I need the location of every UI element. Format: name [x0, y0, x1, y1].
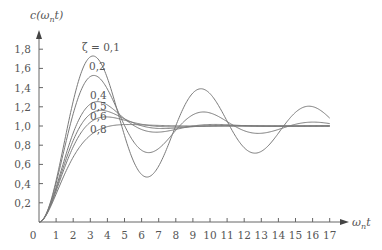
- curve-zeta-0-1: [39, 56, 330, 222]
- y-tick-label: 1,6: [14, 62, 31, 74]
- x-tick-label: 2: [70, 229, 77, 241]
- y-tick-label: 0,8: [14, 139, 31, 151]
- y-tick-label: 0,2: [14, 197, 31, 209]
- x-tick-label: 15: [289, 229, 302, 241]
- curve-label: ζ = 0,1: [82, 41, 120, 53]
- x-tick-label: 11: [220, 229, 233, 241]
- curve-zeta-0-4: [39, 102, 330, 222]
- x-tick-label: 12: [238, 229, 251, 241]
- x-axis-arrow-icon: [340, 219, 349, 225]
- y-tick-label: 1,0: [14, 120, 31, 132]
- axes: [36, 30, 349, 225]
- x-tick-label: 6: [138, 229, 145, 241]
- curve-zeta-0-8: [39, 125, 330, 222]
- x-tick-label: 8: [172, 229, 179, 241]
- x-tick-label: 1: [53, 229, 60, 241]
- x-tick-label: 16: [306, 229, 320, 241]
- curve-label: 0,8: [90, 123, 107, 135]
- y-tick-label: 0,6: [14, 158, 31, 170]
- y-tick-label: 0,4: [14, 178, 31, 190]
- y-axis-arrow-icon: [36, 30, 42, 39]
- curve-label: 0,6: [90, 110, 107, 122]
- curve-labels: ζ = 0,10,20,40,50,60,8: [82, 41, 120, 135]
- y-tick-label: 1,4: [14, 82, 31, 94]
- x-tick-label: 14: [272, 229, 286, 241]
- x-tick-label: 9: [190, 229, 197, 241]
- x-tick-label: 17: [323, 229, 336, 241]
- origin-label: 0: [30, 229, 37, 241]
- step-response-chart: 1234567891011121314151617 0,20,40,60,81,…: [0, 0, 382, 250]
- x-tick-label: 5: [121, 229, 128, 241]
- x-tick-label: 4: [104, 229, 111, 241]
- x-tick-label: 10: [203, 229, 216, 241]
- y-tick-label: 1,8: [14, 43, 31, 55]
- y-axis-label: c(ωnt): [30, 9, 63, 24]
- x-tick-label: 13: [255, 229, 268, 241]
- curve-zeta-0-2: [39, 75, 330, 222]
- x-tick-label: 7: [155, 229, 162, 241]
- x-tick-label: 3: [87, 229, 94, 241]
- curves: [39, 56, 330, 222]
- x-axis-label: ωnt: [352, 216, 371, 231]
- x-ticks: 1234567891011121314151617: [53, 218, 337, 241]
- curve-zeta-0-6: [39, 117, 330, 222]
- y-tick-label: 1,2: [14, 101, 31, 113]
- curve-label: 0,2: [89, 60, 106, 72]
